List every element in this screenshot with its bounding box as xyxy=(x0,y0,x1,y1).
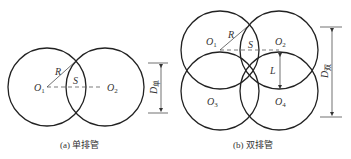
radius-line xyxy=(47,61,76,87)
label-o1: O1 xyxy=(206,36,217,49)
label-radius: R xyxy=(54,66,61,77)
label-d-single: D单 xyxy=(148,80,161,95)
label-d-double: D双 xyxy=(319,64,332,79)
label-overlap: S xyxy=(73,75,78,86)
label-o2: O2 xyxy=(275,36,286,49)
label-o3: O3 xyxy=(207,96,218,109)
caption-b: (b) 双排管 xyxy=(233,139,273,150)
label-radius: R xyxy=(227,29,234,40)
label-o2: O2 xyxy=(107,82,118,95)
label-o1: O1 xyxy=(34,82,45,95)
double-row-diagram: O1 O2 O3 O4 R S L D双 (b) 双排管 xyxy=(181,11,342,150)
circle-o4 xyxy=(240,52,318,130)
label-o4: O4 xyxy=(275,96,286,109)
label-overlap: S xyxy=(248,39,253,50)
caption-a: (a) 单排管 xyxy=(60,139,99,150)
diagram-canvas: O1 O2 R S D单 (a) 单排管 O1 O2 O3 O4 R S L D… xyxy=(0,0,351,159)
circle-o3 xyxy=(181,52,259,130)
single-row-diagram: O1 O2 R S D单 (a) 单排管 xyxy=(8,48,168,150)
label-l: L xyxy=(269,65,276,76)
